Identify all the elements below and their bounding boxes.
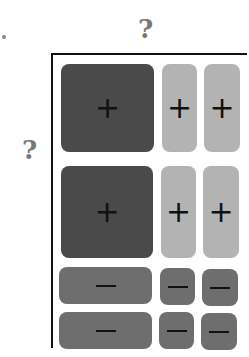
cell-r2-c2: +	[161, 166, 196, 258]
minus-sign	[168, 286, 188, 288]
top-question-label: ?	[138, 14, 153, 44]
cell-r4-c1	[59, 312, 152, 349]
bullet-dot	[2, 35, 6, 39]
left-axis-line	[51, 53, 53, 348]
cell-r4-c2	[159, 312, 194, 349]
plus-sign: +	[209, 93, 234, 123]
minus-sign	[96, 285, 116, 287]
plus-sign: +	[167, 93, 192, 123]
top-axis-line	[52, 53, 247, 55]
cell-r2-c1: +	[61, 166, 153, 258]
cell-r1-c1: +	[61, 64, 154, 152]
minus-sign	[210, 287, 230, 289]
cell-r2-c3: +	[203, 166, 239, 258]
cell-r3-c1	[59, 267, 152, 304]
plus-sign: +	[95, 93, 120, 123]
plus-sign: +	[208, 197, 233, 227]
plus-sign: +	[94, 197, 119, 227]
cell-r3-c3	[202, 269, 238, 306]
cell-r1-c2: +	[162, 64, 197, 152]
cell-r4-c3	[201, 313, 237, 350]
minus-sign	[96, 330, 116, 332]
cell-r3-c2	[160, 268, 195, 305]
left-question-label: ?	[22, 135, 37, 165]
minus-sign	[167, 330, 187, 332]
minus-sign	[209, 331, 229, 333]
cell-r1-c3: +	[204, 64, 240, 152]
plus-sign: +	[166, 197, 191, 227]
